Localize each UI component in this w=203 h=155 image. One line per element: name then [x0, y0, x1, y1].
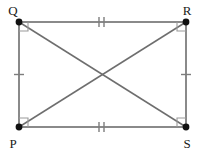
figure-canvas: Q R P S [0, 0, 203, 155]
vertex-dot-S [183, 124, 190, 131]
figure-background [0, 0, 203, 155]
vertex-dot-R [183, 19, 190, 26]
geometry-figure: Q R P S [0, 0, 203, 155]
vertex-label-R: R [183, 3, 192, 18]
vertex-label-Q: Q [8, 3, 18, 18]
vertex-dot-P [16, 124, 23, 131]
vertex-label-S: S [183, 136, 190, 151]
vertex-label-P: P [9, 136, 16, 151]
vertex-dot-Q [16, 19, 23, 26]
